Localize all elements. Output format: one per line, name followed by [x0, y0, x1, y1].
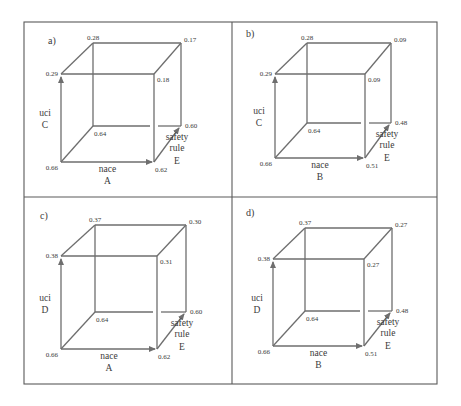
- horizontal-axis-letter: A: [104, 176, 111, 186]
- depth-axis-letter: E: [174, 156, 180, 166]
- vertex-value-front-top-right: 0.18: [157, 76, 170, 84]
- depth-axis-name-line2: rule: [175, 329, 190, 339]
- vertex-value-front-top-right: 0.09: [368, 76, 381, 84]
- vertex-value-front-top-left: 0.38: [46, 252, 59, 260]
- depth-edge-top-right: [364, 228, 392, 259]
- vertex-value-front-top-right: 0.27: [367, 261, 380, 269]
- vertical-axis-name: uci: [39, 108, 51, 118]
- vertex-value-front-bottom-right: 0.62: [155, 166, 168, 174]
- vertex-value-back-bottom-left: 0.64: [94, 130, 107, 138]
- vertex-value-front-top-left: 0.29: [46, 70, 59, 78]
- vertex-value-front-top-right: 0.31: [160, 258, 173, 266]
- panel-d: d)0.370.270.380.270.640.480.660.51uciDna…: [246, 207, 409, 370]
- horizontal-axis-letter: B: [317, 172, 323, 182]
- vertical-axis-name: uci: [253, 106, 265, 116]
- depth-edge-bottom-left: [61, 126, 93, 162]
- depth-edge-top-left: [61, 225, 95, 256]
- depth-axis-letter: E: [179, 342, 185, 352]
- panels: a)0.280.170.290.180.640.600.660.62uciCna…: [39, 28, 409, 373]
- depth-axis-name-line2: rule: [381, 328, 396, 338]
- vertex-value-back-top-left: 0.28: [87, 34, 100, 42]
- vertex-value-front-top-left: 0.38: [258, 255, 271, 263]
- panel-b: b)0.280.090.290.090.640.480.660.51uciCna…: [246, 28, 408, 182]
- depth-edge-top-left: [61, 43, 93, 74]
- vertical-axis-letter: C: [256, 118, 262, 128]
- depth-axis-letter: E: [385, 341, 391, 351]
- horizontal-axis-name: nace: [310, 348, 327, 358]
- cube-diagram-figure: a)0.280.170.290.180.640.600.660.62uciCna…: [0, 0, 461, 406]
- vertical-axis-letter: D: [254, 305, 261, 315]
- vertex-value-back-bottom-right: 0.60: [185, 122, 198, 130]
- vertex-value-back-bottom-right: 0.48: [395, 119, 408, 127]
- vertex-value-front-bottom-left: 0.66: [46, 351, 59, 359]
- depth-edge-top-right: [154, 43, 181, 74]
- panel-c: c)0.370.300.380.310.640.600.660.62uciDna…: [39, 210, 203, 373]
- horizontal-axis-letter: A: [106, 363, 113, 373]
- depth-axis-name-line2: rule: [380, 140, 395, 150]
- vertex-value-back-top-left: 0.28: [301, 34, 314, 42]
- depth-axis-letter: E: [384, 153, 390, 163]
- vertex-value-back-top-right: 0.30: [189, 218, 202, 226]
- depth-edge-top-left: [275, 43, 307, 74]
- vertex-value-back-top-right: 0.17: [184, 36, 197, 44]
- vertex-value-back-bottom-left: 0.64: [96, 316, 109, 324]
- panel-label: d): [246, 207, 254, 219]
- horizontal-axis-name: nace: [311, 160, 328, 170]
- panel-a: a)0.280.170.290.180.640.600.660.62uciCna…: [39, 34, 198, 186]
- depth-axis-name-line1: safety: [166, 132, 189, 142]
- panel-label: a): [48, 35, 56, 47]
- vertex-value-back-bottom-right: 0.60: [190, 308, 203, 316]
- vertex-value-front-bottom-right: 0.51: [365, 350, 378, 358]
- depth-edge-top-left: [273, 228, 305, 259]
- depth-edge-bottom-left: [275, 123, 307, 158]
- vertex-value-back-top-right: 0.27: [395, 221, 408, 229]
- vertex-value-back-bottom-left: 0.64: [308, 127, 321, 135]
- depth-edge-top-right: [157, 225, 186, 256]
- vertex-value-back-top-left: 0.37: [89, 216, 102, 224]
- depth-edge-top-right: [365, 43, 391, 74]
- depth-axis-name-line1: safety: [171, 318, 194, 328]
- vertical-axis-letter: D: [42, 305, 49, 315]
- depth-edge-bottom-left: [273, 311, 305, 346]
- panel-label: b): [246, 28, 254, 40]
- vertex-value-back-top-left: 0.37: [299, 219, 312, 227]
- vertex-value-front-bottom-right: 0.51: [366, 162, 379, 170]
- vertex-value-front-bottom-left: 0.66: [260, 160, 273, 168]
- figure-canvas: a)0.280.170.290.180.640.600.660.62uciCna…: [0, 0, 461, 406]
- depth-axis-name-line1: safety: [377, 317, 400, 327]
- vertex-value-front-bottom-left: 0.66: [258, 348, 271, 356]
- horizontal-axis-name: nace: [100, 351, 117, 361]
- vertical-axis-letter: C: [42, 120, 48, 130]
- vertical-axis-name: uci: [39, 293, 51, 303]
- vertex-value-front-top-left: 0.29: [260, 70, 273, 78]
- vertex-value-back-top-right: 0.09: [394, 36, 407, 44]
- horizontal-axis-name: nace: [99, 164, 116, 174]
- vertex-value-front-bottom-right: 0.62: [158, 353, 171, 361]
- vertex-value-front-bottom-left: 0.66: [46, 164, 59, 172]
- depth-axis-name-line1: safety: [376, 129, 399, 139]
- panel-label: c): [40, 210, 48, 222]
- vertex-value-back-bottom-left: 0.64: [306, 315, 319, 323]
- vertex-value-back-bottom-right: 0.48: [396, 307, 409, 315]
- depth-edge-bottom-left: [61, 312, 95, 349]
- vertical-axis-name: uci: [251, 293, 263, 303]
- horizontal-axis-letter: B: [315, 360, 321, 370]
- depth-axis-name-line2: rule: [170, 143, 185, 153]
